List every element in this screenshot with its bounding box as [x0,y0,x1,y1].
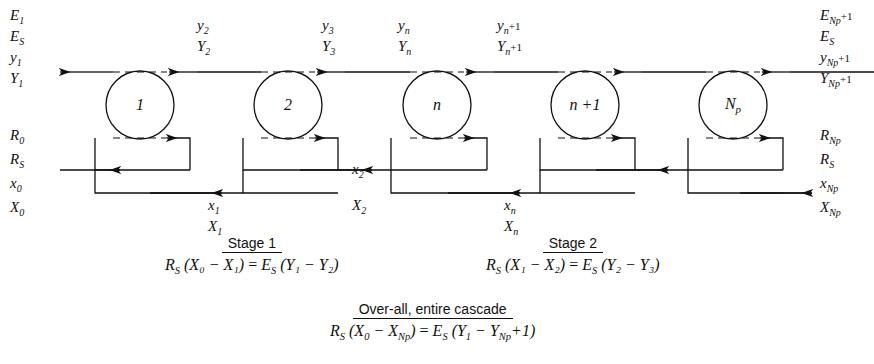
right-label-YNp1: YNp+1 [820,71,852,90]
vapor-label-Y3: Y3 [322,39,335,58]
stage-label-1: 1 [136,96,144,114]
liquid-label-x1: x1 [208,198,220,217]
vapor-label-yn1: yn+1 [497,18,520,37]
loop-lower-np [688,170,783,193]
loop-left-1 [95,138,190,170]
loop-right-2 [315,138,338,170]
vapor-label-Yn: Yn [398,39,411,58]
left-label-ES: ES [10,29,24,48]
right-label-ENp1: ENp+1 [820,8,853,27]
liquid-label-X2: X2 [352,198,366,217]
loop-lower-n1 [540,170,635,193]
stage-1-equation-heading: Stage 1 [222,235,282,253]
stage-2-equation: Stage 2 RS (X₁ − X₂) = ES (Y₂ − Y₃) [486,234,660,276]
loop-left-n [391,138,487,170]
stage-label-n: n [433,96,441,114]
stage-label-np: Np [725,95,741,115]
loop-right-1 [167,138,190,170]
loop-right-np [760,138,783,170]
loop-left-n1 [540,138,635,170]
stage-label-2: 2 [284,96,292,114]
loop-lower-2 [243,170,338,193]
left-label-Y1: Y1 [10,71,23,90]
right-label-RS: RS [820,152,834,171]
liquid-label-xn: xn [504,198,516,217]
loop-left-2 [243,138,338,170]
stage-2-equation-body: RS (X₁ − X₂) = ES (Y₂ − Y₃) [486,256,660,276]
left-label-E1: E1 [10,8,24,27]
loop-right-n1 [612,138,635,170]
vapor-label-y3: y3 [322,18,334,37]
loop-lower-n [391,170,487,193]
overall-equation: Over-all, entire cascade RS (X0 − XNp) =… [330,300,535,342]
left-label-R0: R0 [10,128,24,147]
stage-label-n-plus-1: n +1 [570,96,601,114]
loop-right-n [464,138,487,170]
right-label-XNp: XNp [820,200,841,219]
vapor-label-Yn1: Yn+1 [497,39,522,58]
vapor-label-Y2: Y2 [197,39,210,58]
overall-equation-heading: Over-all, entire cascade [353,301,513,319]
stage-1-equation-body: RS (X₀ − X₁) = ES (Y₁ − Y₂) [165,256,339,276]
right-label-yNp1: yNp+1 [820,50,850,69]
stage-1-equation: Stage 1 RS (X₀ − X₁) = ES (Y₁ − Y₂) [165,234,339,276]
overall-equation-body: RS (X0 − XNp) = ES (Y1 − YNp+1) [330,322,535,342]
right-label-RNp: RNp [820,128,841,147]
vapor-label-yn: yn [398,18,410,37]
stage-2-equation-heading: Stage 2 [543,235,603,253]
vapor-label-y2: y2 [197,18,209,37]
left-label-X0: X0 [10,200,24,219]
loop-lower-1 [95,170,190,193]
liquid-label-x2: x2 [352,162,364,181]
right-label-ES: ES [820,29,834,48]
left-label-RS: RS [10,152,24,171]
left-label-y1: y1 [10,50,22,69]
left-label-x0: x0 [10,176,22,195]
right-label-xNp: xNp [820,176,838,195]
loop-left-np [688,138,783,170]
